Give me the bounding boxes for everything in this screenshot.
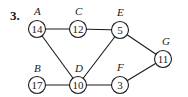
node-f: F 3 (112, 61, 129, 94)
weighted-graph-diagram: 3. A 14 C 12 E 5 G 11 B 17 (0, 0, 188, 97)
node-b-value: 17 (32, 79, 44, 91)
node-g-value: 11 (158, 53, 169, 65)
node-g-label: G (162, 35, 170, 47)
node-b-label: B (34, 62, 41, 74)
node-e: E 5 (112, 6, 129, 39)
node-g: G 11 (155, 35, 172, 68)
node-f-label: F (116, 61, 124, 73)
node-d-label: D (74, 62, 83, 74)
node-c-label: C (75, 5, 83, 17)
node-a-value: 14 (32, 23, 44, 35)
edge-a-d (37, 29, 78, 85)
problem-number: 3. (10, 8, 20, 23)
node-a-label: A (33, 5, 41, 17)
edge-d-e (78, 30, 120, 85)
node-c-value: 12 (73, 23, 84, 35)
node-a: A 14 (29, 5, 46, 38)
node-d-value: 10 (73, 79, 85, 91)
edges (37, 29, 163, 85)
node-c: C 12 (70, 5, 87, 38)
node-f-value: 3 (117, 79, 123, 91)
node-b: B 17 (29, 62, 46, 94)
node-e-value: 5 (117, 24, 123, 36)
node-e-label: E (116, 6, 124, 18)
